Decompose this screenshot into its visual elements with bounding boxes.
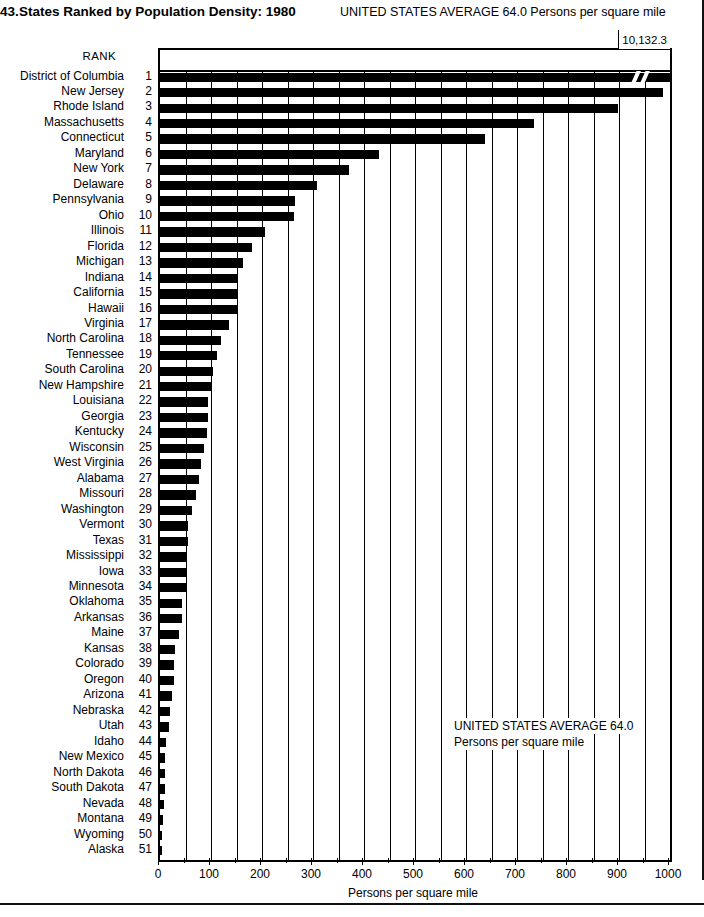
bar-row[interactable] bbox=[160, 147, 670, 162]
bar[interactable] bbox=[160, 165, 349, 174]
bar-row[interactable] bbox=[160, 581, 670, 596]
state-label-row[interactable]: Minnesota34 bbox=[0, 579, 152, 594]
bar-row[interactable] bbox=[160, 410, 670, 425]
bar[interactable] bbox=[160, 583, 186, 592]
state-label-row[interactable]: Rhode Island3 bbox=[0, 99, 152, 114]
bar[interactable] bbox=[160, 351, 217, 360]
state-label-row[interactable]: New York7 bbox=[0, 161, 152, 176]
bar[interactable] bbox=[160, 104, 618, 113]
bar[interactable] bbox=[160, 599, 182, 608]
bar[interactable] bbox=[160, 552, 187, 561]
bar[interactable] bbox=[160, 444, 204, 453]
bar[interactable] bbox=[160, 196, 295, 205]
bar-row[interactable] bbox=[160, 596, 670, 611]
bar-row[interactable] bbox=[160, 287, 670, 302]
state-label-row[interactable]: Montana49 bbox=[0, 811, 152, 826]
bar[interactable] bbox=[160, 181, 317, 190]
bar[interactable] bbox=[160, 336, 221, 345]
state-label-row[interactable]: California15 bbox=[0, 285, 152, 300]
bar-row[interactable] bbox=[160, 642, 670, 657]
state-label-row[interactable]: Florida12 bbox=[0, 239, 152, 254]
bar-row[interactable] bbox=[160, 178, 670, 193]
state-label-row[interactable]: Vermont30 bbox=[0, 517, 152, 532]
bar[interactable] bbox=[160, 382, 212, 391]
bar-row[interactable] bbox=[160, 673, 670, 688]
bar-row[interactable] bbox=[160, 333, 670, 348]
bar[interactable] bbox=[160, 73, 670, 82]
bar-row[interactable] bbox=[160, 766, 670, 781]
bar-row[interactable] bbox=[160, 611, 670, 626]
state-label-row[interactable]: Alaska51 bbox=[0, 842, 152, 857]
bar[interactable] bbox=[160, 831, 162, 840]
bar-row[interactable] bbox=[160, 658, 670, 673]
bar[interactable] bbox=[160, 212, 294, 221]
state-label-row[interactable]: Wisconsin25 bbox=[0, 440, 152, 455]
bar-row[interactable] bbox=[160, 565, 670, 580]
bar-row[interactable] bbox=[160, 194, 670, 209]
bar[interactable] bbox=[160, 119, 534, 128]
state-label-row[interactable]: Arizona41 bbox=[0, 687, 152, 702]
bar[interactable] bbox=[160, 630, 179, 639]
bar[interactable] bbox=[160, 227, 265, 236]
bar-row[interactable] bbox=[160, 534, 670, 549]
state-label-row[interactable]: New Jersey2 bbox=[0, 84, 152, 99]
bar-row[interactable] bbox=[160, 302, 670, 317]
bar[interactable] bbox=[160, 521, 188, 530]
bar[interactable] bbox=[160, 753, 165, 762]
bar-row[interactable] bbox=[160, 225, 670, 240]
bar[interactable] bbox=[160, 800, 164, 809]
state-label-row[interactable]: Mississippi32 bbox=[0, 548, 152, 563]
state-label-row[interactable]: New Hampshire21 bbox=[0, 378, 152, 393]
state-label-row[interactable]: Texas31 bbox=[0, 533, 152, 548]
bar-row[interactable] bbox=[160, 488, 670, 503]
state-label-row[interactable]: Oklahoma35 bbox=[0, 594, 152, 609]
state-label-row[interactable]: Colorado39 bbox=[0, 656, 152, 671]
state-label-row[interactable]: Alabama27 bbox=[0, 471, 152, 486]
state-label-row[interactable]: Hawaii16 bbox=[0, 301, 152, 316]
bar-row[interactable] bbox=[160, 550, 670, 565]
bar-row[interactable] bbox=[160, 503, 670, 518]
state-label-row[interactable]: Virginia17 bbox=[0, 316, 152, 331]
bar[interactable] bbox=[160, 305, 237, 314]
bar[interactable] bbox=[160, 722, 169, 731]
state-label-row[interactable]: Indiana14 bbox=[0, 270, 152, 285]
state-label-row[interactable]: Kentucky24 bbox=[0, 424, 152, 439]
bar[interactable] bbox=[160, 846, 162, 855]
bar-row[interactable] bbox=[160, 828, 670, 843]
bar[interactable] bbox=[160, 243, 252, 252]
state-label-row[interactable]: Delaware8 bbox=[0, 177, 152, 192]
bar-row[interactable] bbox=[160, 364, 670, 379]
bar[interactable] bbox=[160, 691, 172, 700]
bar[interactable] bbox=[160, 568, 187, 577]
state-label-row[interactable]: North Carolina18 bbox=[0, 331, 152, 346]
bar[interactable] bbox=[160, 134, 485, 143]
bar[interactable] bbox=[160, 506, 192, 515]
state-label-row[interactable]: Missouri28 bbox=[0, 486, 152, 501]
bar[interactable] bbox=[160, 150, 379, 159]
bar[interactable] bbox=[160, 475, 199, 484]
state-label-row[interactable]: Iowa33 bbox=[0, 564, 152, 579]
state-label-row[interactable]: Nebraska42 bbox=[0, 703, 152, 718]
bar[interactable] bbox=[160, 289, 237, 298]
state-label-row[interactable]: South Carolina20 bbox=[0, 362, 152, 377]
bar[interactable] bbox=[160, 367, 213, 376]
bar[interactable] bbox=[160, 614, 182, 623]
bar[interactable] bbox=[160, 88, 663, 97]
bar[interactable] bbox=[160, 660, 174, 669]
state-label-row[interactable]: Pennsylvania9 bbox=[0, 192, 152, 207]
bar[interactable] bbox=[160, 784, 165, 793]
state-label-row[interactable]: North Dakota46 bbox=[0, 765, 152, 780]
state-label-row[interactable]: Maryland6 bbox=[0, 146, 152, 161]
bar[interactable] bbox=[160, 815, 163, 824]
state-label-row[interactable]: Tennessee19 bbox=[0, 347, 152, 362]
bar[interactable] bbox=[160, 274, 238, 283]
bar[interactable] bbox=[160, 397, 208, 406]
state-label-row[interactable]: Maine37 bbox=[0, 625, 152, 640]
state-label-row[interactable]: Oregon40 bbox=[0, 672, 152, 687]
bar-row[interactable] bbox=[160, 689, 670, 704]
bar-row[interactable] bbox=[160, 256, 670, 271]
state-label-row[interactable]: Kansas38 bbox=[0, 641, 152, 656]
bar-row[interactable] bbox=[160, 441, 670, 456]
state-label-row[interactable]: South Dakota47 bbox=[0, 780, 152, 795]
state-label-row[interactable]: Michigan13 bbox=[0, 254, 152, 269]
